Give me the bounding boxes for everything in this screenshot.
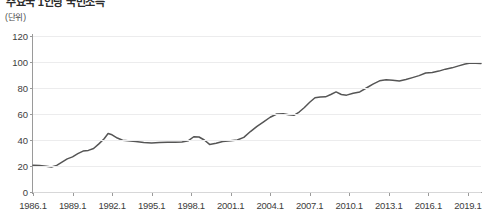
gridline [33, 114, 481, 115]
x-axis-tick-mark [73, 193, 74, 196]
y-axis-tick-mark [30, 166, 33, 167]
x-axis-tick-mark [389, 193, 390, 196]
x-axis-tick-label: 2019.1 [454, 200, 481, 211]
gridline [33, 166, 481, 167]
x-axis-tick-mark [191, 193, 192, 196]
x-axis-tick-label: 2007.1 [296, 200, 323, 211]
y-axis-tick-label: 0 [23, 187, 28, 198]
x-axis-tick-labels: 1986.11989.11992.11995.11998.12001.12004… [33, 200, 481, 216]
gridline [33, 88, 481, 89]
x-axis-tick-mark [310, 193, 311, 196]
x-axis-tick-marks [33, 193, 481, 197]
y-axis-tick-labels: 020406080100120 [0, 36, 28, 192]
gridline [33, 192, 481, 193]
x-axis-tick-label: 1992.1 [98, 200, 125, 211]
y-axis-tick-mark [30, 192, 33, 193]
page-title: 주요국 1인당 국민소득 [6, 0, 105, 9]
data-line [33, 63, 481, 167]
x-axis-tick-label: 1995.1 [138, 200, 165, 211]
gridline [33, 140, 481, 141]
x-axis-tick-mark [33, 193, 34, 196]
y-axis-tick-label: 40 [17, 135, 28, 146]
y-axis-tick-mark [30, 140, 33, 141]
x-axis-tick-mark [112, 193, 113, 196]
y-axis-tick-mark [30, 62, 33, 63]
x-axis-tick-label: 2016.1 [415, 200, 442, 211]
x-axis-tick-mark [231, 193, 232, 196]
x-axis-tick-mark [270, 193, 271, 196]
x-axis-tick-mark [349, 193, 350, 196]
y-axis-tick-mark [30, 36, 33, 37]
y-axis-tick-mark [30, 88, 33, 89]
y-axis-tick-label: 120 [12, 31, 28, 42]
x-axis-tick-label: 1986.1 [19, 200, 46, 211]
x-axis-tick-label: 1998.1 [177, 200, 204, 211]
y-axis-unit-label: (단위) [5, 10, 26, 22]
x-axis-tick-mark [428, 193, 429, 196]
plot-area [33, 36, 481, 192]
y-axis-tick-label: 80 [17, 83, 28, 94]
x-axis-tick-label: 1989.1 [59, 200, 86, 211]
x-axis-tick-label: 2004.1 [257, 200, 284, 211]
y-axis-tick-label: 60 [17, 109, 28, 120]
y-axis-tick-label: 20 [17, 161, 28, 172]
x-axis-tick-label: 2001.1 [217, 200, 244, 211]
x-axis-tick-label: 2013.1 [375, 200, 402, 211]
gridline [33, 62, 481, 63]
y-axis-tick-mark [30, 114, 33, 115]
x-axis-tick-mark [468, 193, 469, 196]
y-axis-tick-label: 100 [12, 57, 28, 68]
x-axis-tick-mark [152, 193, 153, 196]
gridline [33, 36, 481, 37]
x-axis-tick-label: 2010.1 [336, 200, 363, 211]
